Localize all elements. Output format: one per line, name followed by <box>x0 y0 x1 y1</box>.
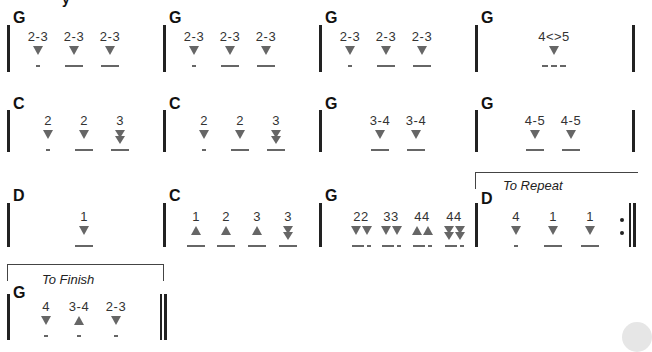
duration-mark <box>177 63 211 69</box>
duration-mark <box>240 243 274 249</box>
hole-number: 2-3 <box>93 30 127 44</box>
duration-short-icon <box>397 245 401 247</box>
blow-down-arrow-icon <box>33 46 43 55</box>
note-glyph <box>93 46 127 60</box>
blow-down-arrow-icon <box>105 46 115 55</box>
title-fragment: y <box>62 0 70 7</box>
blow-down-arrow-icon <box>417 46 427 55</box>
tab-note: 4-5 <box>518 114 552 153</box>
blow-down-arrow-icon <box>235 130 245 139</box>
duration-long-short <box>413 245 432 247</box>
duration-mark <box>405 243 439 249</box>
duration-mark <box>99 333 133 339</box>
duration-short-icon <box>367 245 371 247</box>
duration-mark <box>374 243 408 249</box>
tab-note: 2-3 <box>369 30 403 69</box>
tab-note: 4-5 <box>554 114 588 153</box>
note-glyph <box>405 46 439 60</box>
tab-note: 1 <box>67 210 101 249</box>
tab-note: 3-4 <box>399 114 433 153</box>
barline <box>319 110 322 152</box>
hole-number: 4-5 <box>554 114 588 128</box>
hole-number: 2-3 <box>99 300 133 314</box>
note-glyph <box>21 46 55 60</box>
final-repeat-barline <box>629 203 636 247</box>
duration-long-icon <box>562 149 580 151</box>
note-glyph <box>363 130 397 144</box>
chord-symbol: G <box>325 10 337 26</box>
duration-mark <box>437 243 471 249</box>
hole-number: 4 <box>499 210 533 224</box>
draw-up-arrow-icon <box>191 226 201 235</box>
tab-note: 2-3 <box>99 300 133 339</box>
duration-mark <box>62 333 96 339</box>
duration-mark <box>57 63 91 69</box>
bend-double-down-arrow-icon <box>444 226 454 240</box>
barline <box>163 110 166 152</box>
chord-symbol: G <box>325 188 337 204</box>
repeat-dot-icon <box>620 231 624 235</box>
bend-double-down-arrow-icon <box>271 130 281 144</box>
blow-down-arrow-icon <box>79 130 89 139</box>
barline <box>319 203 322 247</box>
hole-number: 2 <box>223 114 257 128</box>
barline <box>7 294 10 340</box>
note-glyph <box>344 226 378 240</box>
duration-long-short <box>352 245 371 247</box>
duration-long-icon <box>248 245 266 247</box>
hole-number: 2-3 <box>177 30 211 44</box>
duration-mark <box>344 243 378 249</box>
barline <box>475 25 478 72</box>
duration-mark <box>259 147 293 153</box>
duration-long-icon <box>257 65 275 67</box>
glyph-pair <box>412 226 433 235</box>
duration-long-icon <box>413 65 431 67</box>
duration-mark <box>103 147 137 153</box>
blow-down-arrow-icon <box>189 46 199 55</box>
barline <box>475 203 478 247</box>
chord-symbol: G <box>13 285 25 301</box>
barline <box>632 110 635 152</box>
duration-mark <box>363 147 397 153</box>
chord-symbol: C <box>169 188 181 204</box>
duration-long-icon <box>101 65 119 67</box>
duration-mark <box>536 243 570 249</box>
hole-number: 3 <box>240 210 274 224</box>
duration-dashed-icon <box>542 65 566 67</box>
duration-long-icon <box>65 65 83 67</box>
duration-short-icon <box>36 65 40 67</box>
note-glyph <box>67 130 101 144</box>
duration-mark <box>93 63 127 69</box>
duration-long-icon <box>377 65 395 67</box>
duration-long-icon <box>371 149 389 151</box>
note-glyph <box>405 226 439 240</box>
page-corner-decoration <box>622 322 652 352</box>
duration-long-short <box>445 245 464 247</box>
blow-down-arrow-icon <box>381 226 391 235</box>
chord-symbol: G <box>13 10 25 26</box>
note-glyph <box>333 46 367 60</box>
duration-mark <box>223 147 257 153</box>
note-glyph <box>62 316 96 330</box>
bend-double-down-arrow-icon <box>455 226 465 240</box>
duration-mark <box>333 63 367 69</box>
duration-short-icon <box>77 335 81 337</box>
duration-mark <box>405 63 439 69</box>
glyph-pair <box>381 226 402 235</box>
duration-long-icon <box>187 245 205 247</box>
hole-number: 4 <box>29 300 63 314</box>
tab-note: 2-3 <box>213 30 247 69</box>
hole-number: 4-5 <box>518 114 552 128</box>
tab-note: 1 <box>179 210 213 249</box>
duration-mark <box>29 333 63 339</box>
duration-mark <box>518 147 552 153</box>
blow-down-arrow-icon <box>381 46 391 55</box>
duration-long-icon <box>221 65 239 67</box>
note-glyph <box>177 46 211 60</box>
duration-mark <box>369 63 403 69</box>
note-glyph <box>499 226 533 240</box>
barline <box>319 25 322 72</box>
tab-note: 3 <box>259 114 293 153</box>
tab-note: 2-3 <box>177 30 211 69</box>
tab-note: 1 <box>573 210 607 249</box>
